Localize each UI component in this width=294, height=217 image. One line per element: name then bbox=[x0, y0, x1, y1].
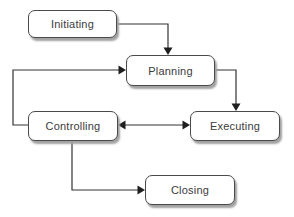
node-initiating: Initiating bbox=[28, 10, 117, 38]
connector-controlling-to-closing bbox=[72, 141, 140, 190]
connector-planning-to-executing bbox=[215, 70, 236, 106]
node-initiating-label: Initiating bbox=[51, 18, 94, 30]
arrowhead-into-closing-left bbox=[138, 186, 146, 195]
arrowhead-into-controlling-right bbox=[118, 121, 126, 130]
node-planning-label: Planning bbox=[148, 65, 192, 77]
arrowhead-into-planning-left bbox=[119, 66, 127, 75]
node-controlling: Controlling bbox=[28, 111, 118, 141]
arrowhead-into-executing-top bbox=[232, 104, 241, 112]
node-executing-label: Executing bbox=[210, 120, 260, 132]
arrowhead-into-planning-top bbox=[164, 48, 173, 56]
node-closing-label: Closing bbox=[171, 184, 209, 196]
connector-initiating-to-planning bbox=[117, 24, 168, 50]
node-controlling-label: Controlling bbox=[46, 120, 101, 132]
node-closing: Closing bbox=[145, 175, 235, 205]
process-groups-diagram: Initiating Planning Controlling Executin… bbox=[0, 0, 294, 217]
node-planning: Planning bbox=[126, 55, 215, 86]
node-executing: Executing bbox=[190, 111, 280, 141]
arrowhead-into-executing-left bbox=[183, 121, 191, 130]
